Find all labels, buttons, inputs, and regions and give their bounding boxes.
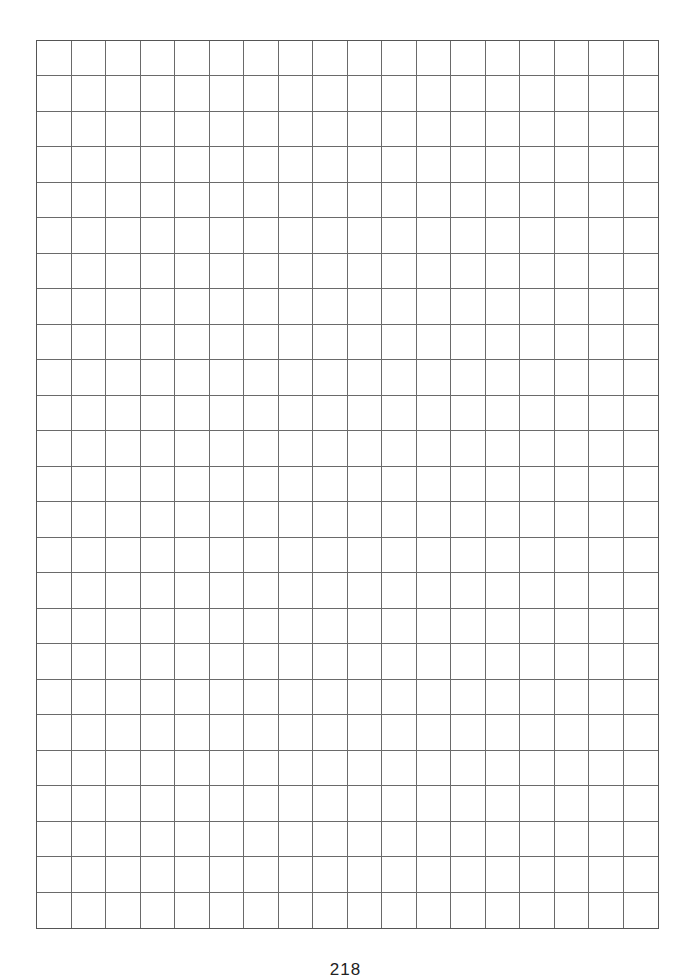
grid-cell bbox=[451, 254, 486, 289]
grid-cell bbox=[72, 751, 107, 786]
grid-cell bbox=[210, 396, 245, 431]
grid-cell bbox=[589, 41, 624, 76]
grid-cell bbox=[244, 680, 279, 715]
grid-cell bbox=[348, 680, 383, 715]
grid-cell bbox=[141, 218, 176, 253]
grid-cell bbox=[313, 254, 348, 289]
grid-cell bbox=[106, 822, 141, 857]
grid-cell bbox=[244, 822, 279, 857]
grid-cell bbox=[313, 325, 348, 360]
grid-cell bbox=[313, 218, 348, 253]
grid-cell bbox=[279, 431, 314, 466]
grid-cell bbox=[106, 857, 141, 892]
grid-cell bbox=[451, 183, 486, 218]
grid-cell bbox=[486, 751, 521, 786]
grid-cell bbox=[210, 467, 245, 502]
grid-cell bbox=[486, 715, 521, 750]
grid-cell bbox=[37, 76, 72, 111]
grid-cell bbox=[37, 502, 72, 537]
grid-cell bbox=[37, 573, 72, 608]
grid-cell bbox=[555, 502, 590, 537]
grid-cell bbox=[589, 609, 624, 644]
grid-cell bbox=[313, 112, 348, 147]
grid-cell bbox=[175, 893, 210, 928]
grid-cell bbox=[244, 254, 279, 289]
grid-cell bbox=[486, 822, 521, 857]
grid-cell bbox=[555, 786, 590, 821]
grid-cell bbox=[555, 183, 590, 218]
grid-cell bbox=[106, 147, 141, 182]
grid-cell bbox=[106, 112, 141, 147]
grid-cell bbox=[589, 112, 624, 147]
grid-cell bbox=[382, 76, 417, 111]
grid-cell bbox=[520, 76, 555, 111]
grid-cell bbox=[624, 609, 659, 644]
grid-cell bbox=[451, 609, 486, 644]
grid-cell bbox=[382, 609, 417, 644]
grid-cell bbox=[417, 644, 452, 679]
grid-cell bbox=[624, 431, 659, 466]
grid-cell bbox=[210, 502, 245, 537]
grid-cell bbox=[520, 396, 555, 431]
grid-cell bbox=[106, 609, 141, 644]
grid-cell bbox=[382, 218, 417, 253]
grid-cell bbox=[244, 147, 279, 182]
grid-cell bbox=[520, 857, 555, 892]
grid-cell bbox=[382, 893, 417, 928]
grid-cell bbox=[348, 325, 383, 360]
grid-cell bbox=[417, 396, 452, 431]
grid-cell bbox=[106, 76, 141, 111]
grid-cell bbox=[624, 644, 659, 679]
grid-cell bbox=[486, 467, 521, 502]
grid-cell bbox=[348, 76, 383, 111]
grid-cell bbox=[175, 147, 210, 182]
grid-cell bbox=[175, 786, 210, 821]
grid-cell bbox=[520, 218, 555, 253]
grid-cell bbox=[72, 822, 107, 857]
grid-cell bbox=[520, 254, 555, 289]
grid-cell bbox=[451, 76, 486, 111]
grid-cell bbox=[520, 325, 555, 360]
grid-cell bbox=[589, 857, 624, 892]
grid-cell bbox=[72, 857, 107, 892]
grid-cell bbox=[624, 715, 659, 750]
grid-cell bbox=[72, 431, 107, 466]
grid-cell bbox=[486, 573, 521, 608]
grid-cell bbox=[210, 41, 245, 76]
grid-cell bbox=[175, 467, 210, 502]
grid-cell bbox=[279, 751, 314, 786]
grid-cell bbox=[210, 786, 245, 821]
grid-cell bbox=[175, 857, 210, 892]
grid-cell bbox=[348, 183, 383, 218]
grid-cell bbox=[486, 786, 521, 821]
grid-cell bbox=[520, 786, 555, 821]
grid-cell bbox=[244, 41, 279, 76]
grid-cell bbox=[210, 538, 245, 573]
grid-cell bbox=[244, 786, 279, 821]
grid-cell bbox=[348, 396, 383, 431]
grid-cell bbox=[417, 218, 452, 253]
grid-cell bbox=[37, 183, 72, 218]
grid-cell bbox=[313, 183, 348, 218]
grid-cell bbox=[210, 573, 245, 608]
grid-cell bbox=[175, 41, 210, 76]
grid-cell bbox=[106, 289, 141, 324]
grid-cell bbox=[520, 751, 555, 786]
grid-cell bbox=[244, 751, 279, 786]
grid-cell bbox=[175, 751, 210, 786]
grid-cell bbox=[72, 289, 107, 324]
grid-cell bbox=[451, 112, 486, 147]
grid-cell bbox=[141, 254, 176, 289]
grid-cell bbox=[313, 573, 348, 608]
grid-cell bbox=[37, 893, 72, 928]
grid-cell bbox=[382, 112, 417, 147]
grid-cell bbox=[486, 360, 521, 395]
grid-cell bbox=[486, 112, 521, 147]
grid-cell bbox=[244, 715, 279, 750]
grid-cell bbox=[589, 289, 624, 324]
grid-cell bbox=[72, 41, 107, 76]
grid-cell bbox=[210, 680, 245, 715]
grid-cell bbox=[520, 822, 555, 857]
grid-cell bbox=[486, 857, 521, 892]
grid-cell bbox=[244, 609, 279, 644]
